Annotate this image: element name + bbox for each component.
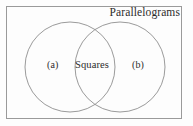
venn-diagram-figure: Parallelograms (a) Squares (b) xyxy=(0,0,193,126)
universe-label: Parallelograms xyxy=(110,7,180,19)
right-region-label: (b) xyxy=(132,60,144,70)
left-region-label: (a) xyxy=(47,60,58,70)
intersection-label: Squares xyxy=(75,60,109,71)
